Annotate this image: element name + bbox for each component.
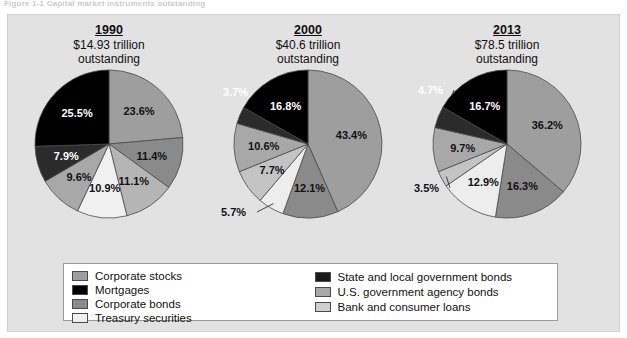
pie-slice-label: 23.6% xyxy=(123,105,154,117)
legend-swatch-icon xyxy=(72,313,88,323)
pie-slice-label: 7.7% xyxy=(259,164,284,176)
pie-slice-label: 16.7% xyxy=(469,100,500,112)
chart-panel: 1990 $14.93 trillion outstanding 23.6%11… xyxy=(7,14,620,332)
pie-block-2013: 2013 $78.5 trillion outstanding 36.2%16.… xyxy=(412,23,602,248)
pie-slice-label: 11.4% xyxy=(137,150,168,162)
legend-column-left: Corporate stocksMortgagesCorporate bonds… xyxy=(72,270,315,320)
pie-sub-label: outstanding xyxy=(213,52,403,66)
pie-chart-1990: 23.6%11.4%11.1%10.9%9.6%7.9%25.5% xyxy=(14,66,204,236)
legend-label: State and local government bonds xyxy=(338,271,513,283)
pie-slice-label: 4.7% xyxy=(418,84,443,96)
pie-slice-label: 7.9% xyxy=(54,150,79,162)
pie-block-1990: 1990 $14.93 trillion outstanding 23.6%11… xyxy=(14,23,204,248)
pie-slice-label: 9.6% xyxy=(66,171,91,183)
legend-swatch-icon xyxy=(315,302,331,312)
legend-item: Bank and consumer loans xyxy=(315,300,558,313)
pie-amount-label: $14.93 trillion xyxy=(14,38,204,52)
pie-slice-label: 3.7% xyxy=(223,86,248,98)
legend-label: U.S. government agency bonds xyxy=(338,286,499,298)
legend-item: State and local government bonds xyxy=(315,270,558,283)
legend-label: Corporate stocks xyxy=(95,270,182,282)
legend-swatch-icon xyxy=(72,285,88,295)
figure-title: Figure 1-1 Capital market instruments ou… xyxy=(4,0,205,8)
pie-slice-label: 25.5% xyxy=(61,107,92,119)
legend-item: Corporate stocks xyxy=(72,270,315,282)
legend-item: Corporate bonds xyxy=(72,298,315,310)
pie-slice-label: 3.5% xyxy=(414,182,439,194)
pie-year-label: 2013 xyxy=(412,23,602,38)
chart-legend: Corporate stocksMortgagesCorporate bonds… xyxy=(63,263,558,321)
pie-slice-label: 16.3% xyxy=(507,180,538,192)
legend-label: Corporate bonds xyxy=(95,298,181,310)
pie-slice-label: 16.8% xyxy=(270,100,301,112)
pie-slice-label: 12.9% xyxy=(468,176,499,188)
legend-item: Treasury securities xyxy=(72,312,315,324)
legend-column-right: State and local government bondsU.S. gov… xyxy=(315,270,558,320)
pie-slice-label: 10.6% xyxy=(248,140,279,152)
pie-slice-label: 36.2% xyxy=(532,119,563,131)
pie-header-2013: 2013 $78.5 trillion outstanding xyxy=(412,23,602,66)
pie-sub-label: outstanding xyxy=(412,52,602,66)
pie-amount-label: $40.6 trillion xyxy=(213,38,403,52)
legend-label: Bank and consumer loans xyxy=(338,301,471,313)
pie-amount-label: $78.5 trillion xyxy=(412,38,602,52)
legend-swatch-icon xyxy=(315,272,331,282)
legend-label: Mortgages xyxy=(95,284,149,296)
pie-chart-2000: 43.4%12.1%5.7%7.7%10.6%3.7%16.8% xyxy=(213,66,403,236)
pie-chart-2013: 36.2%16.3%12.9%3.5%9.7%4.7%16.7% xyxy=(412,66,602,236)
pie-slice-label: 12.1% xyxy=(294,182,325,194)
pie-block-2000: 2000 $40.6 trillion outstanding 43.4%12.… xyxy=(213,23,403,248)
pie-slice-label: 43.4% xyxy=(336,129,367,141)
legend-swatch-icon xyxy=(72,271,88,281)
legend-swatch-icon xyxy=(315,287,331,297)
pie-year-label: 1990 xyxy=(14,23,204,38)
legend-label: Treasury securities xyxy=(95,312,192,324)
pie-slice-label: 10.9% xyxy=(89,182,120,194)
pie-header-2000: 2000 $40.6 trillion outstanding xyxy=(213,23,403,66)
pie-slice-label: 11.1% xyxy=(119,175,150,187)
pie-slice-label: 9.7% xyxy=(450,142,475,154)
legend-item: U.S. government agency bonds xyxy=(315,285,558,298)
pie-year-label: 2000 xyxy=(213,23,403,38)
pie-slice-label: 5.7% xyxy=(221,206,246,218)
pie-header-1990: 1990 $14.93 trillion outstanding xyxy=(14,23,204,66)
pie-sub-label: outstanding xyxy=(14,52,204,66)
legend-item: Mortgages xyxy=(72,284,315,296)
legend-swatch-icon xyxy=(72,299,88,309)
